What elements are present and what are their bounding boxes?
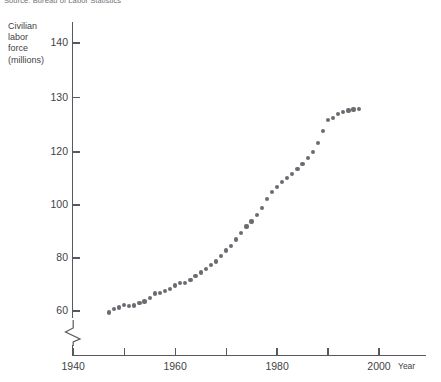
y-tick <box>73 42 80 43</box>
data-point <box>244 224 248 228</box>
data-point <box>224 248 228 252</box>
data-point <box>214 259 218 263</box>
data-point <box>117 305 121 309</box>
data-point <box>204 267 208 271</box>
y-tick <box>73 97 80 98</box>
data-point <box>122 303 126 307</box>
data-point <box>199 270 203 274</box>
data-point <box>219 254 223 258</box>
y-tick-label: 120 <box>8 145 68 157</box>
data-point <box>316 141 320 145</box>
data-point <box>234 237 238 241</box>
data-point <box>285 176 289 180</box>
y-tick-label: 130 <box>8 91 68 103</box>
data-point <box>148 296 152 300</box>
data-point <box>168 287 172 291</box>
data-point <box>183 281 187 285</box>
data-point <box>300 162 304 166</box>
labor-force-chart: Source: Bureau of Labor Statistics Civil… <box>0 0 441 382</box>
data-point <box>270 190 274 194</box>
data-point <box>280 180 284 184</box>
data-point <box>178 281 182 285</box>
y-tick <box>73 151 80 152</box>
data-point <box>107 310 111 314</box>
x-tick <box>124 348 125 355</box>
data-point <box>249 219 253 223</box>
data-point <box>158 291 162 295</box>
x-tick-label: 1940 <box>50 360 96 372</box>
x-tick-label: 1960 <box>152 360 198 372</box>
data-point <box>331 116 335 120</box>
data-point <box>132 303 136 307</box>
x-tick <box>378 348 379 355</box>
y-tick-label: 100 <box>8 198 68 210</box>
data-point <box>209 263 213 267</box>
data-point <box>260 206 264 210</box>
data-point <box>346 108 350 112</box>
data-point <box>153 291 157 295</box>
data-point <box>306 156 310 160</box>
data-point <box>163 289 167 293</box>
x-tick <box>276 348 277 355</box>
data-point <box>351 107 355 111</box>
data-point <box>255 213 259 217</box>
data-point <box>341 110 345 114</box>
data-point <box>326 118 330 122</box>
data-point <box>137 301 141 305</box>
plot-area: 6080100120130140 1940196019802000 Year <box>0 0 441 382</box>
data-point <box>290 172 294 176</box>
data-point <box>295 167 299 171</box>
data-point <box>239 231 243 235</box>
y-tick <box>73 310 80 311</box>
x-tick-label: 2000 <box>356 360 402 372</box>
data-point <box>112 307 116 311</box>
data-point <box>275 185 279 189</box>
x-tick <box>327 348 328 355</box>
data-point <box>229 244 233 248</box>
data-point <box>311 150 315 154</box>
x-axis-title: Year <box>398 361 415 371</box>
y-axis-line <box>72 22 73 318</box>
x-tick <box>175 348 176 355</box>
axis-break-icon <box>64 320 82 346</box>
data-point <box>127 304 131 308</box>
y-tick-label: 80 <box>8 251 68 263</box>
x-tick-label: 1980 <box>254 360 300 372</box>
x-tick <box>73 348 74 355</box>
data-point <box>357 107 361 111</box>
data-point <box>336 112 340 116</box>
x-tick <box>226 348 227 355</box>
y-tick-label: 60 <box>8 304 68 316</box>
x-axis-line <box>72 355 426 356</box>
data-point <box>193 274 197 278</box>
y-tick <box>73 204 80 205</box>
y-tick <box>73 257 80 258</box>
data-point <box>265 197 269 201</box>
data-point <box>321 129 325 133</box>
data-point <box>188 278 192 282</box>
data-point <box>142 299 146 303</box>
data-point <box>173 283 177 287</box>
y-tick-label: 140 <box>8 36 68 48</box>
